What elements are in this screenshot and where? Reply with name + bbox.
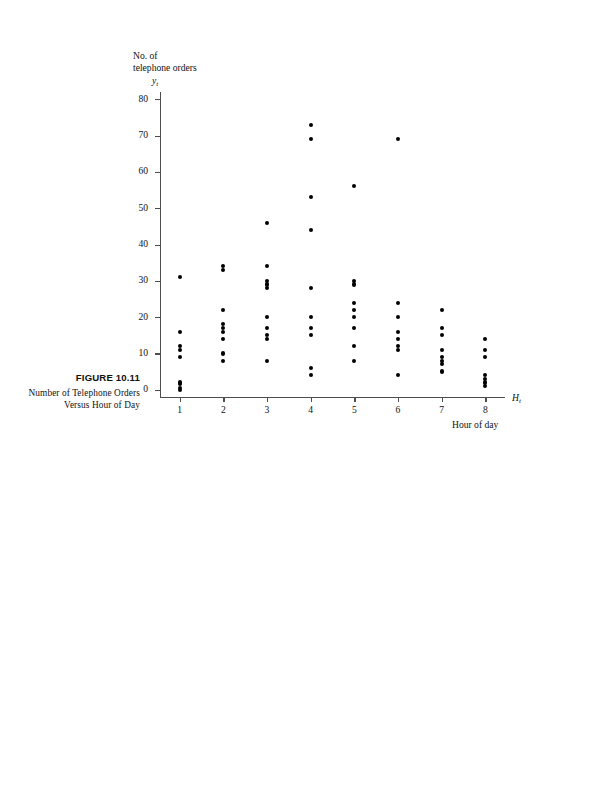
scatter-point: [265, 221, 269, 225]
x-axis-tick-label: 1: [169, 404, 191, 415]
scatter-point: [309, 137, 313, 141]
y-axis-tick: [155, 172, 160, 173]
scatter-point: [309, 373, 313, 377]
scatter-point: [309, 333, 313, 337]
scatter-point: [396, 337, 400, 341]
x-axis-symbol-base: H: [512, 392, 519, 403]
y-axis-tick: [155, 281, 160, 282]
x-axis-tick: [398, 397, 399, 402]
y-axis-tick-label: 30: [114, 274, 148, 285]
y-axis-tick: [155, 245, 160, 246]
x-axis-tick: [311, 397, 312, 402]
scatter-point: [440, 348, 444, 352]
scatter-point: [309, 195, 313, 199]
scatter-point: [352, 326, 356, 330]
figure-10-11: FIGURE 10.11 Number of Telephone Orders …: [0, 0, 599, 440]
figure-10-11-x-axis-symbol: Ht: [512, 392, 521, 407]
scatter-point: [440, 308, 444, 312]
x-axis-tick: [223, 397, 224, 402]
figure-10-11-x-axis-title: Hour of day: [452, 419, 498, 431]
scatter-point: [221, 359, 225, 363]
scatter-point: [352, 315, 356, 319]
x-axis-tick: [180, 397, 181, 402]
scatter-point: [396, 301, 400, 305]
y-axis-tick: [155, 353, 160, 354]
x-axis-tick: [267, 397, 268, 402]
scatter-point: [309, 228, 313, 232]
scatter-point: [440, 326, 444, 330]
scatter-point: [221, 337, 225, 341]
scatter-point: [309, 123, 313, 127]
figure-10-11-plot-area: 0102030405060708012345678: [160, 92, 505, 397]
scatter-point: [352, 359, 356, 363]
x-axis-symbol-subscript: t: [519, 397, 521, 405]
scatter-point: [352, 282, 356, 286]
scatter-point: [352, 184, 356, 188]
scatter-point: [396, 315, 400, 319]
x-axis-tick-label: 6: [387, 404, 409, 415]
y-axis-tick: [155, 208, 160, 209]
y-axis-tick: [155, 136, 160, 137]
x-axis-line: [160, 397, 505, 398]
y-axis-line: [160, 92, 161, 397]
y-axis-tick-label: 20: [114, 311, 148, 322]
x-axis-tick: [354, 397, 355, 402]
x-axis-tick-label: 7: [431, 404, 453, 415]
y-axis-title-line1: No. of: [133, 50, 158, 61]
y-axis-tick-label: 40: [114, 238, 148, 249]
scatter-point: [309, 326, 313, 330]
scatter-point: [352, 308, 356, 312]
figure-10-12: FIGURE 10.12 Plot of s2Ht Versus ȳHt fo…: [0, 455, 599, 791]
y-axis-tick: [155, 99, 160, 100]
scatter-point: [352, 301, 356, 305]
scatter-point: [309, 286, 313, 290]
scatter-point: [221, 308, 225, 312]
x-axis-tick: [442, 397, 443, 402]
y-axis-tick: [155, 317, 160, 318]
scatter-point: [265, 264, 269, 268]
scatter-point: [352, 344, 356, 348]
scatter-point: [483, 355, 487, 359]
scatter-point: [440, 362, 444, 366]
scatter-point: [265, 315, 269, 319]
scatter-point: [440, 333, 444, 337]
y-axis-tick-label: 70: [114, 129, 148, 140]
x-axis-tick: [485, 397, 486, 402]
scatter-point: [178, 275, 182, 279]
scatter-point: [265, 286, 269, 290]
scatter-point: [178, 348, 182, 352]
scatter-point: [483, 384, 487, 388]
scatter-point: [440, 369, 444, 373]
x-axis-tick-label: 2: [212, 404, 234, 415]
x-axis-tick-label: 5: [343, 404, 365, 415]
scatter-point: [178, 388, 182, 392]
scatter-point: [396, 137, 400, 141]
scatter-point: [265, 337, 269, 341]
y-axis-tick-label: 50: [114, 202, 148, 213]
scatter-point: [483, 337, 487, 341]
x-axis-tick-label: 4: [300, 404, 322, 415]
y-axis-tick-label: 10: [114, 347, 148, 358]
scatter-point: [396, 373, 400, 377]
scatter-point: [178, 330, 182, 334]
y-axis-tick-label: 0: [114, 383, 148, 394]
scatter-point: [221, 330, 225, 334]
figure-10-11-y-axis-symbol: yt: [152, 75, 158, 90]
figure-10-11-y-axis-title: No. of telephone orders: [133, 50, 197, 75]
scatter-point: [265, 326, 269, 330]
x-axis-tick-label: 3: [256, 404, 278, 415]
scatter-point: [265, 359, 269, 363]
y-axis-symbol-subscript: t: [156, 80, 158, 88]
y-axis-title-line2: telephone orders: [133, 62, 197, 73]
scatter-point: [221, 351, 225, 355]
scatter-point: [396, 348, 400, 352]
scatter-point: [178, 355, 182, 359]
scatter-point: [483, 348, 487, 352]
y-axis-tick-label: 60: [114, 165, 148, 176]
scatter-point: [309, 315, 313, 319]
scatter-point: [396, 330, 400, 334]
y-axis-tick-label: 80: [114, 93, 148, 104]
y-axis-tick: [155, 390, 160, 391]
scatter-point: [309, 366, 313, 370]
x-axis-tick-label: 8: [474, 404, 496, 415]
